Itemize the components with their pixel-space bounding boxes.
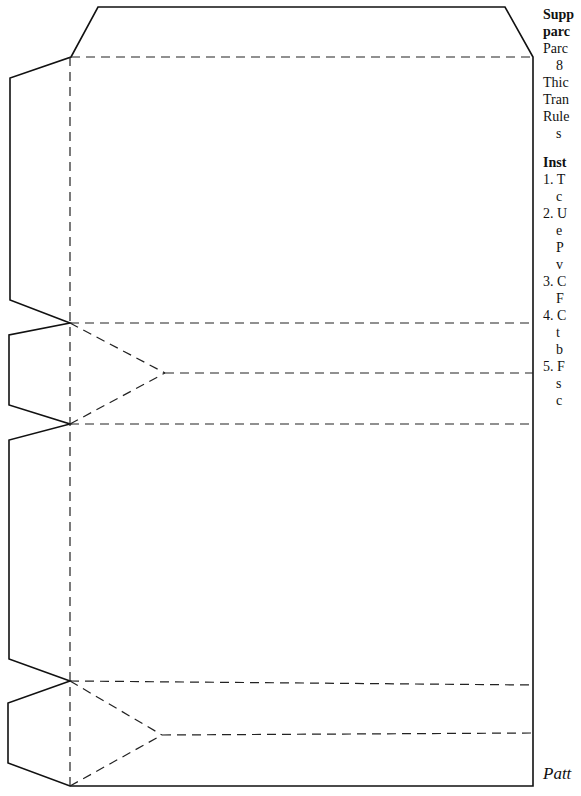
instruction-line: P — [543, 239, 581, 256]
supplies-line: Parc — [543, 40, 581, 57]
fold-3 — [70, 681, 533, 685]
gusset-2-upper — [70, 681, 162, 735]
instructions-title: Inst — [543, 154, 581, 171]
instruction-line: c — [543, 188, 581, 205]
gusset-1-upper — [70, 323, 165, 373]
instruction-line: 4. C — [543, 307, 581, 324]
gusset-2-lower — [70, 735, 162, 786]
instruction-line: b — [543, 341, 581, 358]
supplies-title-line-1: Supp — [543, 6, 581, 23]
supplies-line: 8 — [543, 57, 581, 74]
pattern-caption: Patt — [543, 764, 571, 784]
instruction-line: t — [543, 324, 581, 341]
envelope-pattern-diagram — [0, 0, 581, 796]
instruction-line: 5. F — [543, 358, 581, 375]
supplies-title-line-2: parc — [543, 23, 581, 40]
instruction-line: c — [543, 392, 581, 409]
instruction-line: e — [543, 222, 581, 239]
instruction-line: 1. T — [543, 171, 581, 188]
supplies-line: Tran — [543, 91, 581, 108]
fold-lines — [70, 57, 533, 786]
supplies-line: Thic — [543, 74, 581, 91]
gusset-1-lower — [70, 373, 165, 424]
instruction-line: F — [543, 290, 581, 307]
supplies-line: s — [543, 125, 581, 142]
supplies-line: Rule — [543, 108, 581, 125]
cut-outline — [8, 7, 533, 786]
section-gap — [543, 142, 581, 154]
instruction-line: 2. U — [543, 205, 581, 222]
instruction-line: s — [543, 375, 581, 392]
side-text-column: Supp parc Parc 8 Thic Tran Rule s Inst 1… — [543, 6, 581, 409]
instruction-line: 3. C — [543, 273, 581, 290]
instruction-line: v — [543, 256, 581, 273]
gusset-2-center — [162, 733, 533, 735]
